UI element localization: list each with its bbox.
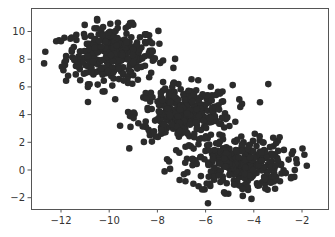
data-point: [241, 171, 248, 178]
data-point: [101, 78, 108, 85]
data-point: [85, 99, 92, 106]
data-point: [272, 162, 279, 169]
data-point: [181, 96, 188, 103]
data-point: [146, 74, 153, 81]
data-point: [94, 25, 101, 32]
data-point: [299, 145, 306, 152]
data-point: [63, 77, 70, 84]
data-point: [117, 122, 124, 129]
data-point: [110, 58, 117, 65]
data-point: [173, 147, 180, 154]
data-point: [258, 150, 265, 157]
data-point: [139, 55, 146, 62]
data-point: [237, 104, 244, 111]
data-point: [222, 164, 229, 171]
x-tick-label: −2: [295, 215, 310, 226]
data-point: [304, 163, 311, 170]
y-tick-label: 2: [19, 137, 25, 148]
data-point: [226, 172, 233, 179]
data-point: [211, 164, 218, 171]
data-point: [139, 123, 146, 130]
data-point: [224, 114, 231, 121]
y-axis: −20246810: [10, 26, 31, 203]
data-point: [201, 156, 208, 163]
data-point: [86, 81, 93, 88]
data-point: [167, 113, 174, 120]
data-point: [190, 181, 197, 188]
data-point: [141, 139, 148, 146]
data-point: [236, 96, 243, 103]
data-point: [176, 177, 183, 184]
data-point: [161, 168, 168, 175]
data-point: [182, 178, 189, 185]
data-point: [191, 91, 198, 98]
data-point: [156, 108, 163, 115]
data-point: [73, 71, 80, 78]
data-point: [94, 16, 101, 23]
data-point: [195, 77, 202, 84]
data-point: [125, 23, 132, 30]
data-point: [81, 22, 88, 29]
x-tick-label: −10: [99, 215, 120, 226]
data-point: [240, 193, 247, 200]
data-point: [90, 58, 97, 65]
data-point: [99, 88, 106, 95]
data-point: [98, 44, 105, 51]
data-point: [170, 81, 177, 88]
data-point: [301, 152, 308, 159]
data-point: [109, 82, 116, 89]
y-tick-label: −2: [10, 192, 25, 203]
data-point: [235, 154, 242, 161]
data-point: [129, 52, 136, 59]
y-tick-label: 4: [19, 109, 25, 120]
data-point: [94, 81, 101, 88]
data-point: [292, 167, 299, 174]
data-point: [203, 180, 210, 187]
data-point: [63, 57, 70, 64]
data-point: [82, 34, 89, 41]
data-point: [277, 178, 284, 185]
data-point: [88, 69, 95, 76]
data-point: [105, 68, 112, 75]
data-point: [254, 182, 261, 189]
data-point: [210, 156, 217, 163]
data-point: [177, 128, 184, 135]
data-points: [41, 16, 310, 207]
data-point: [77, 77, 84, 84]
data-point: [112, 96, 119, 103]
data-point: [205, 162, 212, 169]
x-tick-label: −8: [150, 215, 165, 226]
data-point: [205, 200, 212, 207]
data-point: [130, 115, 137, 122]
x-tick-label: −6: [198, 215, 213, 226]
data-point: [242, 164, 249, 171]
data-point: [175, 113, 182, 120]
data-point: [154, 116, 161, 123]
data-point: [208, 131, 215, 138]
data-point: [105, 29, 112, 36]
data-point: [167, 99, 174, 106]
data-point: [271, 170, 278, 177]
data-point: [293, 156, 300, 163]
data-point: [114, 35, 121, 42]
data-point: [151, 56, 158, 63]
data-point: [275, 148, 282, 155]
data-point: [172, 56, 179, 63]
data-point: [258, 158, 265, 165]
data-point: [120, 77, 127, 84]
data-point: [190, 145, 197, 152]
data-point: [247, 155, 254, 162]
data-point: [107, 20, 114, 27]
data-point: [221, 189, 228, 196]
data-point: [219, 132, 226, 139]
data-point: [248, 196, 255, 203]
scatter-chart: −12−10−8−6−4−2 −20246810: [0, 0, 335, 237]
data-point: [213, 92, 220, 99]
data-point: [216, 106, 223, 113]
data-point: [60, 67, 67, 74]
y-tick-label: 10: [12, 26, 25, 37]
data-point: [216, 172, 223, 179]
data-point: [260, 139, 267, 146]
data-point: [231, 138, 238, 145]
data-point: [273, 140, 280, 147]
